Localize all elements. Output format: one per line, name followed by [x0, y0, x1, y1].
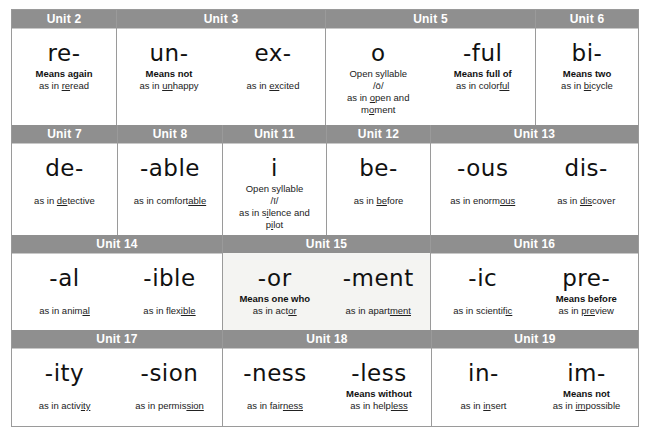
affix-cell: un- Means not as in unhappy	[117, 28, 221, 125]
row-3: Unit 14 -al as in animal -ible as in fle…	[12, 235, 638, 330]
example: as in before	[327, 195, 430, 207]
unit-18: Unit 18 -ness as in fairness -less Means…	[222, 330, 431, 426]
example: as in enormous	[431, 195, 535, 207]
unit-16: Unit 16 -ic as in scientific pre- Means …	[430, 235, 638, 330]
unit-6: Unit 6 bi- Means two as in bicycle	[535, 10, 638, 125]
affix: -ous	[431, 153, 535, 183]
unit-header: Unit 3	[117, 10, 325, 29]
meaning: Means one who	[223, 293, 327, 305]
unit-header: Unit 8	[118, 125, 222, 144]
example: as in reread	[12, 80, 116, 92]
affix: -ness	[223, 358, 327, 388]
row-1: Unit 2 re- Means again as in reread Unit…	[12, 10, 638, 125]
affix-cell: in- as in insert	[432, 348, 535, 426]
unit-8: Unit 8 -able as in comfortable	[117, 125, 222, 235]
affix: dis-	[535, 153, 639, 183]
affix-cell: -or Means one who as in actor	[223, 253, 327, 330]
affix: -or	[223, 263, 327, 293]
affix-cell: pre- Means before as in preview	[535, 253, 639, 330]
row-2: Unit 7 de- as in detective Unit 8 -able …	[12, 125, 638, 235]
unit-11: Unit 11 i Open syllable /ī/ as in silenc…	[222, 125, 326, 235]
unit-13: Unit 13 -ous as in enormous dis- as in d…	[430, 125, 638, 235]
affix: re-	[12, 38, 116, 68]
example: as in unhappy	[117, 80, 221, 92]
unit-17: Unit 17 -ity as in activity -sion as in …	[12, 330, 222, 426]
unit-header: Unit 5	[326, 10, 535, 29]
affix-cell: -ous as in enormous	[431, 143, 535, 235]
affix-cell: im- Means not as in impossible	[535, 348, 638, 426]
affix-cell: -able as in comfortable	[118, 143, 222, 235]
example: as in discover	[535, 195, 639, 207]
unit-header: Unit 6	[536, 10, 638, 29]
affix-cell: dis- as in discover	[535, 143, 639, 235]
affix: ex-	[221, 38, 325, 68]
affix-cell: -ible as in flexible	[117, 253, 222, 330]
affix: -less	[327, 358, 431, 388]
example: as in permission	[117, 400, 222, 412]
meaning: Means not	[117, 68, 221, 80]
affix: i	[223, 153, 326, 183]
affix-cell: bi- Means two as in bicycle	[536, 28, 638, 125]
pronunciation: /ō/	[326, 80, 431, 92]
affix-units-grid: Unit 2 re- Means again as in reread Unit…	[11, 9, 639, 427]
unit-2: Unit 2 re- Means again as in reread	[12, 10, 116, 125]
affix: -ity	[12, 358, 117, 388]
example: as in activity	[12, 400, 117, 412]
unit-header: Unit 12	[327, 125, 430, 144]
example: as in detective	[12, 195, 117, 207]
example-2: pilot	[223, 219, 326, 231]
affix: -ful	[431, 38, 536, 68]
affix: -ic	[431, 263, 535, 293]
note: Open syllable	[223, 183, 326, 195]
unit-15: Unit 15 -or Means one who as in actor -m…	[222, 235, 430, 330]
example: as in scientific	[431, 305, 535, 317]
affix: -al	[12, 263, 117, 293]
example: as in flexible	[117, 305, 222, 317]
example-2: moment	[326, 104, 431, 116]
affix: -able	[118, 153, 222, 183]
affix-cell: re- Means again as in reread	[12, 28, 116, 125]
meaning: Means without	[327, 388, 431, 400]
example: as in bicycle	[536, 80, 638, 92]
note: Open syllable	[326, 68, 431, 80]
example: as in impossible	[535, 400, 638, 412]
example: as in actor	[223, 305, 327, 317]
affix-cell: be- as in before	[327, 143, 430, 235]
unit-header: Unit 17	[12, 330, 222, 349]
unit-header: Unit 19	[432, 330, 638, 349]
affix: in-	[432, 358, 535, 388]
affix-cell: i Open syllable /ī/ as in silence and pi…	[223, 143, 326, 235]
affix-cell: -ic as in scientific	[431, 253, 535, 330]
affix-cell: o Open syllable /ō/ as in open and momen…	[326, 28, 431, 125]
meaning: Means full of	[431, 68, 536, 80]
example: as in excited	[221, 80, 325, 92]
affix: -sion	[117, 358, 222, 388]
unit-12: Unit 12 be- as in before	[326, 125, 430, 235]
affix-cell: -al as in animal	[12, 253, 117, 330]
affix: -ment	[327, 263, 431, 293]
example: as in animal	[12, 305, 117, 317]
affix-cell: ex- as in excited	[221, 28, 325, 125]
example: as in colorful	[431, 80, 536, 92]
unit-header: Unit 13	[431, 125, 638, 144]
unit-19: Unit 19 in- as in insert im- Means not a…	[431, 330, 638, 426]
affix: de-	[12, 153, 117, 183]
example: as in fairness	[223, 400, 327, 412]
affix-cell: -ity as in activity	[12, 348, 117, 426]
example: as in silence and	[223, 207, 326, 219]
unit-header: Unit 14	[12, 235, 222, 254]
row-4: Unit 17 -ity as in activity -sion as in …	[12, 330, 638, 426]
meaning: Means again	[12, 68, 116, 80]
example: as in comfortable	[118, 195, 222, 207]
affix-cell: -ful Means full of as in colorful	[431, 28, 536, 125]
affix-cell: -ness as in fairness	[223, 348, 327, 426]
example: as in apartment	[327, 305, 431, 317]
example: as in insert	[432, 400, 535, 412]
unit-3: Unit 3 un- Means not as in unhappy ex- a…	[116, 10, 325, 125]
pronunciation: /ī/	[223, 195, 326, 207]
affix: un-	[117, 38, 221, 68]
unit-header: Unit 7	[12, 125, 117, 144]
affix-cell: de- as in detective	[12, 143, 117, 235]
unit-5: Unit 5 o Open syllable /ō/ as in open an…	[325, 10, 535, 125]
unit-header: Unit 15	[223, 235, 430, 254]
